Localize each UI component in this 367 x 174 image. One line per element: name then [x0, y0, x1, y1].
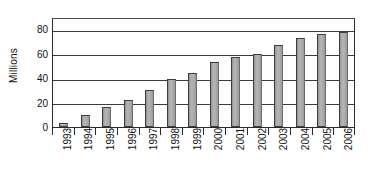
bar-slot: [161, 19, 183, 127]
x-axis-tick-label-text: 1998: [171, 128, 181, 150]
bar: [231, 57, 240, 127]
bar-slot: [139, 19, 161, 127]
x-axis-tick-label: 1993: [52, 137, 74, 174]
x-axis-tick-label: 1996: [117, 137, 139, 174]
bar: [102, 107, 111, 127]
x-axis-tick-label: 1998: [160, 137, 182, 174]
x-axis-tick-label-text: 1995: [106, 128, 116, 150]
x-axis-tick-label-text: 1999: [193, 128, 203, 150]
y-axis-title-text: Millions: [8, 48, 19, 83]
plot-area: [52, 18, 355, 128]
x-axis-tick-label-text: 2000: [214, 128, 224, 150]
y-axis-tick-label: 80: [22, 25, 48, 35]
bar-slot: [311, 19, 333, 127]
bar: [274, 45, 283, 127]
x-axis-tick-label: 1999: [182, 137, 204, 174]
bar: [317, 34, 326, 127]
y-axis-tick-label: 20: [22, 99, 48, 109]
bar: [81, 115, 90, 127]
bar-slot: [118, 19, 140, 127]
x-axis-tick-label-text: 2001: [236, 128, 246, 150]
y-axis-tick-label: 60: [22, 50, 48, 60]
y-axis-title: Millions: [4, 0, 22, 130]
x-axis-tick-label: 2006: [333, 137, 355, 174]
x-axis-tick-label: 2005: [312, 137, 334, 174]
bar-slot: [182, 19, 204, 127]
bar: [124, 100, 133, 127]
x-axis-tick-label-text: 1994: [84, 128, 94, 150]
x-axis-tick-label: 2003: [268, 137, 290, 174]
bar-series: [53, 19, 354, 127]
x-axis-tick-label: 1995: [95, 137, 117, 174]
x-axis-tick-label: 2000: [203, 137, 225, 174]
x-axis-tick-label: 2004: [290, 137, 312, 174]
x-axis-tick-label-text: 2002: [258, 128, 268, 150]
x-axis-tick-label-text: 2003: [279, 128, 289, 150]
bar: [59, 123, 68, 127]
x-axis-tick-label-text: 2004: [301, 128, 311, 150]
y-axis-tick-label: 40: [22, 74, 48, 84]
bar-slot: [290, 19, 312, 127]
bar-slot: [333, 19, 355, 127]
bar-slot: [225, 19, 247, 127]
x-axis-tick-label: 1994: [74, 137, 96, 174]
x-axis-tick-label: 2002: [247, 137, 269, 174]
bar: [296, 38, 305, 127]
y-axis-tick-label: 0: [22, 123, 48, 133]
x-axis-tick-label-text: 2005: [323, 128, 333, 150]
bar: [188, 73, 197, 127]
x-axis-tick-label-text: 1997: [149, 128, 159, 150]
bar-slot: [268, 19, 290, 127]
bar-slot: [75, 19, 97, 127]
bar-slot: [53, 19, 75, 127]
x-axis-tick-label-text: 1993: [63, 128, 73, 150]
bar-chart: Millions 020406080 199319941995199619971…: [0, 0, 367, 174]
bar-slot: [204, 19, 226, 127]
x-axis-tick-label: 1997: [139, 137, 161, 174]
x-axis-tick-label-text: 1996: [128, 128, 138, 150]
x-axis-tick-label-text: 2006: [344, 128, 354, 150]
x-axis-tick-labels: 1993199419951996199719981999200020012002…: [52, 137, 355, 174]
x-axis-tick-label: 2001: [225, 137, 247, 174]
bar: [253, 54, 262, 127]
bar: [339, 32, 348, 127]
y-axis-tick-labels: 020406080: [22, 0, 48, 174]
bar-slot: [247, 19, 269, 127]
bar: [145, 90, 154, 127]
bar: [167, 79, 176, 127]
bar-slot: [96, 19, 118, 127]
bar: [210, 62, 219, 127]
